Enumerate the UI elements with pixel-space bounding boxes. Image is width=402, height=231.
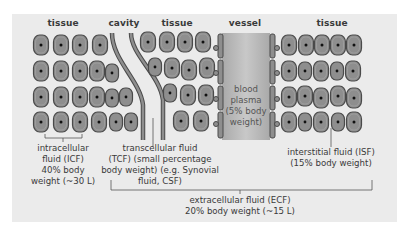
ecf-annotation: extracellular fluid (ECF) 20% body weigh… bbox=[185, 195, 295, 217]
isf-annotation: interstitial fluid (ISF) (15% body weigh… bbox=[287, 147, 374, 169]
label-tissue-left: tissue bbox=[47, 18, 78, 28]
label-tissue-right: tissue bbox=[316, 18, 347, 28]
label-tissue-middle: tissue bbox=[161, 18, 192, 28]
icf-annotation: intracellular fluid (ICF) 40% body weigh… bbox=[31, 143, 95, 187]
blood-plasma-label: blood plasma (5% body weight) bbox=[226, 84, 267, 128]
label-vessel: vessel bbox=[229, 18, 261, 28]
middle-tissue-cells bbox=[141, 32, 215, 131]
left-tissue-cells bbox=[34, 35, 138, 132]
tcf-annotation: transcellular fluid (TCF) (small percent… bbox=[101, 143, 219, 187]
label-cavity: cavity bbox=[108, 18, 139, 28]
right-tissue-cells bbox=[282, 35, 362, 132]
